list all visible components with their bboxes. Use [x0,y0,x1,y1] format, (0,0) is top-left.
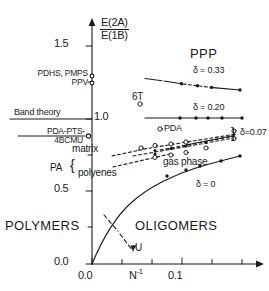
delta-007-brace: } [231,126,236,141]
label-6t: 6T [132,92,143,103]
y-tick-1-0: 1.0 [94,111,108,123]
x-tick-0-1: 0.1 [168,270,182,282]
pa-brace: { [70,158,75,173]
label-ppp: PPP [190,47,217,61]
label-pda: PDA [164,124,182,133]
y-axis-title-denominator: E(1B) [100,30,129,42]
label-oligomers: OLIGOMERS [135,219,217,233]
label-ppv: PPV [8,78,88,87]
x-axis-title-text: N [129,269,137,281]
y-tick-0-0: 0.0 [54,256,68,268]
label-polyenes: polyenes [78,168,116,179]
label-matrix: matrix [72,144,98,155]
label-pa: PA [50,163,62,174]
label-delta-007: δ=0.07 [240,128,267,137]
axis-marker-ppv [90,81,94,85]
y-axis-title: E(2A) E(1B) [100,17,129,41]
x-axis-title: N-1 [129,270,143,282]
x-axis-title-exponent: -1 [137,267,143,276]
y-tick-0-5: 0.5 [54,183,68,195]
series-polyenes [113,154,170,167]
label-delta-020: δ = 0.20 [193,103,224,112]
label-gas-phase: gas phase [163,157,207,168]
u-boundary-line [104,215,137,251]
series-delta-033 [145,79,240,91]
y-axis-minor-ticks [88,82,92,227]
x-tick-0-0: 0.0 [78,270,92,282]
label-polymers: POLYMERS [5,219,79,233]
axis-marker-pdhs-pmps [90,74,94,78]
label-delta-0: δ = 0 [196,180,215,189]
series-delta-007-solid [186,136,234,146]
x-axis-ticks [92,258,242,264]
x-axis [92,261,264,268]
y-axis-title-numerator: E(2A) [100,17,129,30]
label-band-theory: Band theory [14,108,60,117]
y-tick-1-5: 1.5 [54,38,68,50]
axis-marker-pda-pts [86,134,90,138]
figure-root: 1.5 1.0 0.5 0.0 0.0 0.1 E(2A) E(1B) N-1 … [0,0,269,291]
label-u: U [135,243,142,254]
label-delta-033: δ = 0.33 [193,66,224,75]
